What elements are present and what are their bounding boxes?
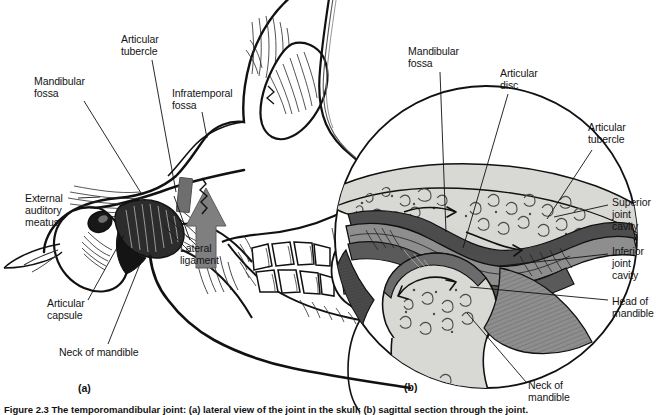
figure-temporomandibular-joint: Articular tubercle Mandibular fossa Infr… — [0, 0, 659, 415]
label-articular-disc: Articular disc — [500, 68, 538, 92]
label-mandibular-fossa-b: Mandibular fossa — [408, 46, 459, 70]
label-articular-tubercle-b: Articular tubercle — [588, 122, 626, 146]
label-infratemporal-fossa: Infratemporal fossa — [172, 88, 233, 112]
label-articular-capsule: Articular capsule — [47, 298, 85, 322]
label-mandibular-fossa-a: Mandibular fossa — [34, 76, 85, 100]
label-neck-of-mandible-a: Neck of mandible — [59, 347, 139, 359]
label-inferior-joint-cavity: Inferior joint cavity — [612, 246, 644, 281]
lateral-ligament-marker-block — [176, 177, 192, 212]
label-superior-joint-cavity: Superior joint cavity — [612, 197, 651, 232]
label-neck-of-mandible-b: Neck of mandible — [528, 380, 570, 404]
label-articular-tubercle-a: Articular tubercle — [121, 34, 159, 58]
panel-id-a: (a) — [78, 382, 91, 394]
panel-id-b: (b) — [404, 381, 417, 393]
figure-caption: Figure 2.3 The temporomandibular joint: … — [4, 404, 656, 415]
label-lateral-ligament: Lateral ligament — [180, 243, 219, 267]
label-head-of-mandible: Head of mandible — [612, 296, 654, 320]
label-external-auditory-meatus: External auditory meatus — [25, 193, 63, 228]
